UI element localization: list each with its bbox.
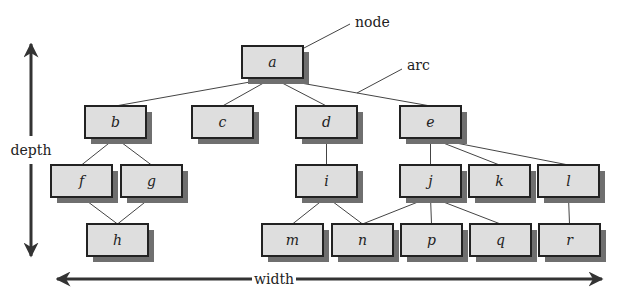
depth-label: depth [11, 142, 52, 158]
node-q: q [470, 224, 537, 262]
node-label: d [322, 114, 331, 130]
node-j: j [400, 165, 467, 203]
node-label: p [427, 232, 436, 248]
node-label: a [268, 54, 276, 70]
node-c: c [192, 106, 259, 144]
node-label: n [358, 232, 367, 248]
node-e: e [400, 106, 467, 144]
node-label: m [286, 232, 299, 248]
node-b: b [85, 106, 152, 144]
node-label: b [111, 114, 120, 130]
node-g: g [121, 165, 188, 203]
node-a: a [242, 46, 309, 84]
node-n: n [332, 224, 399, 262]
node-d: d [296, 106, 363, 144]
nodes-layer: abcdefgijklhmnpqr [51, 46, 606, 262]
node-label: k [495, 173, 503, 189]
node-f: f [51, 165, 118, 203]
node-l: l [538, 165, 605, 203]
arc-annotation: arc [407, 57, 430, 73]
node-p: p [401, 224, 468, 262]
node-r: r [539, 224, 606, 262]
node-m: m [262, 224, 329, 262]
node-i: i [296, 165, 363, 203]
tree-diagram: abcdefgijklhmnpqr node arc depth width [0, 0, 619, 299]
node-k: k [469, 165, 536, 203]
node-label: g [147, 173, 156, 189]
node-label: c [219, 114, 227, 130]
width-label: width [254, 271, 294, 287]
node-annotation: node [355, 14, 390, 30]
node-h: h [87, 224, 154, 262]
node-label: i [324, 173, 328, 189]
node-label: h [113, 232, 122, 248]
arc-leader-line [357, 69, 402, 93]
node-label: e [426, 114, 434, 130]
node-label: q [496, 232, 505, 248]
node-leader-line [304, 24, 350, 48]
node-label: l [566, 173, 570, 189]
